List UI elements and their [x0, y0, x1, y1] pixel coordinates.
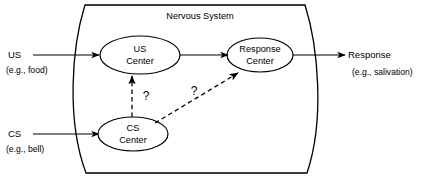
us-input-sublabel: (e.g., food) — [6, 65, 48, 75]
node-cs-center-line2: Center — [119, 135, 147, 145]
conditioning-diagram: Nervous System US (e.g., food) CS (e.g.,… — [0, 0, 421, 180]
node-us-center-line1: US — [134, 44, 147, 54]
question-mark-cs-to-response-center: ? — [191, 84, 198, 98]
response-output-label: Response — [348, 49, 391, 60]
node-response-center-line2: Center — [246, 56, 274, 66]
us-input-label: US — [8, 49, 21, 60]
response-output-sublabel: (e.g., salivation) — [352, 67, 413, 77]
cs-input-sublabel: (e.g., bell) — [6, 144, 44, 154]
node-cs-center-line1: CS — [127, 123, 140, 133]
diagram-canvas: Nervous System US (e.g., food) CS (e.g.,… — [0, 0, 421, 180]
node-us-center-line2: Center — [126, 56, 154, 66]
question-mark-cs-to-us-center: ? — [143, 89, 150, 103]
node-response-center-line1: Response — [239, 44, 280, 54]
cs-to-response-center-dashed-arrow — [155, 73, 238, 123]
cs-input-label: CS — [8, 128, 21, 139]
node-us-center[interactable] — [100, 36, 180, 74]
nervous-system-title: Nervous System — [166, 11, 234, 21]
